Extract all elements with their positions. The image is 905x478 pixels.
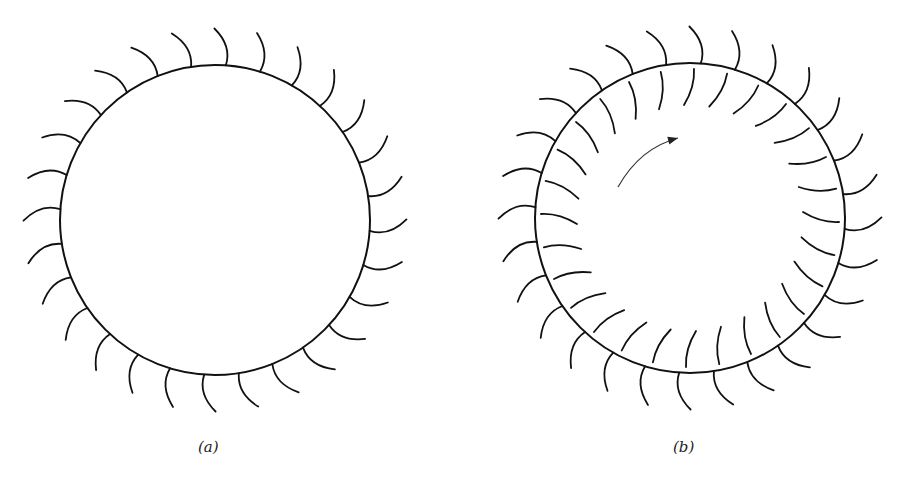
outer-vane-hook <box>95 71 127 93</box>
inner-vane-hook <box>765 303 780 337</box>
outer-vane-hook <box>606 46 632 74</box>
outer-vane-hook <box>499 206 536 219</box>
panel-a-rotor-outer-hooks <box>24 29 407 412</box>
outer-vane-hook <box>28 244 61 263</box>
outer-vane-hook <box>239 373 258 406</box>
outer-vane-hook <box>503 242 536 261</box>
outer-vane-hook <box>540 99 576 113</box>
outer-vane-hook <box>363 262 402 270</box>
inner-vane-hook <box>802 237 835 255</box>
inner-vane-hook <box>717 327 721 364</box>
outer-vane-hook <box>257 33 265 72</box>
outer-vane-hook <box>804 323 840 337</box>
inner-vane-hook <box>653 330 671 363</box>
outer-vane-hook <box>42 134 80 143</box>
outer-vane-hook <box>818 98 840 130</box>
outer-vane-hook <box>65 101 101 115</box>
rotation-arrow-icon <box>618 138 678 187</box>
outer-vane-hook <box>28 170 67 178</box>
outer-vane-hook <box>165 368 173 407</box>
inner-vane-hook <box>782 284 804 314</box>
outer-vane-hook <box>571 332 585 368</box>
outer-vane-hook <box>518 275 546 301</box>
inner-vane-hook <box>558 150 586 175</box>
inner-vane-hook <box>600 99 615 133</box>
outer-vane-hook <box>678 373 691 410</box>
outer-vane-hook <box>24 208 61 221</box>
inner-vane-hook <box>734 86 759 114</box>
inner-vane-hook <box>576 122 598 152</box>
inner-vane-hook <box>629 82 636 119</box>
outer-vane-hook <box>747 362 773 390</box>
arrowhead-icon <box>667 137 678 145</box>
outer-vane-hook <box>843 175 876 194</box>
inner-vane-hook <box>799 187 836 191</box>
inner-vane-hook <box>684 69 694 105</box>
outer-vane-hook <box>203 375 216 412</box>
outer-vane-hook <box>329 325 365 339</box>
figure-canvas <box>0 0 905 478</box>
outer-vane-hook <box>503 168 542 176</box>
inner-vane-hook <box>803 212 839 222</box>
outer-vane-hook <box>129 355 138 393</box>
outer-vane-hook <box>96 334 110 370</box>
outer-vane-hook <box>767 45 776 83</box>
outer-vane-hook <box>640 366 648 405</box>
outer-vane-hook <box>320 70 334 106</box>
inner-vane-hook <box>686 331 696 367</box>
outer-vane-hook <box>825 295 863 304</box>
outer-vane-hook <box>517 132 555 141</box>
inner-vane-hook <box>659 72 663 109</box>
outer-vane-hook <box>778 346 810 368</box>
rotor-circle-a <box>60 65 370 375</box>
outer-vane-hook <box>172 33 191 66</box>
inner-vane-hook <box>622 322 647 350</box>
outer-vane-hook <box>359 136 387 162</box>
inner-vane-hook <box>756 104 786 126</box>
outer-vane-hook <box>604 353 613 391</box>
outer-vane-hook <box>292 47 301 85</box>
inner-vane-hook <box>775 128 809 143</box>
outer-vane-hook <box>343 100 365 132</box>
outer-vane-hook <box>647 31 666 64</box>
outer-vane-hook <box>131 48 157 76</box>
inner-vane-hook <box>744 317 751 354</box>
outer-vane-hook <box>214 29 227 66</box>
caption-a: (a) <box>198 438 219 456</box>
outer-vane-hook <box>303 348 335 370</box>
inner-vane-hook <box>789 157 826 164</box>
outer-vane-hook <box>541 306 563 338</box>
outer-vane-hook <box>834 134 862 160</box>
outer-vane-hook <box>368 177 401 196</box>
inner-vane-hook <box>594 310 624 332</box>
outer-vane-hook <box>732 31 740 70</box>
outer-vane-hook <box>350 297 388 306</box>
outer-vane-hook <box>66 308 88 340</box>
inner-vane-hook <box>544 245 581 249</box>
inner-vane-hook <box>794 262 822 287</box>
outer-vane-hook <box>714 371 733 404</box>
inner-vane-hook <box>554 272 591 279</box>
outer-vane-hook <box>272 364 298 392</box>
outer-vane-hook <box>43 277 71 303</box>
inner-vane-hook <box>709 74 727 107</box>
inner-vane-hook <box>571 293 605 308</box>
caption-b: (b) <box>673 438 694 456</box>
panel-b-rotor-inner-outer-hooks <box>499 27 882 410</box>
outer-vane-hook <box>845 217 882 230</box>
inner-vane-hook <box>541 214 577 224</box>
outer-vane-hook <box>370 219 407 232</box>
outer-vane-hook <box>838 260 877 268</box>
outer-vane-hook <box>570 69 602 91</box>
inner-vane-hook <box>546 181 579 199</box>
outer-vane-hook <box>795 68 809 104</box>
outer-vane-hook <box>689 27 702 64</box>
rotor-circle-b <box>535 63 845 373</box>
